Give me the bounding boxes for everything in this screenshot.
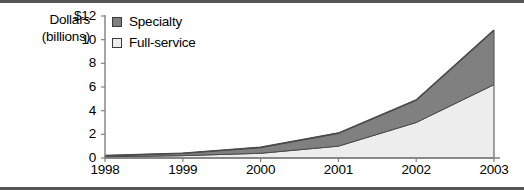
- x-tick-2003: 2003: [464, 163, 524, 177]
- legend-item-specialty[interactable]: Specialty: [112, 11, 196, 32]
- legend-label: Specialty: [129, 11, 182, 32]
- chart-frame: Dollars (billions) $121086420 SpecialtyF…: [0, 0, 524, 190]
- x-tick-1999: 1999: [153, 163, 213, 177]
- x-tick-1998: 1998: [75, 163, 135, 177]
- x-tick-2001: 2001: [308, 163, 368, 177]
- x-axis-tick-labels: 199819992000200120022003: [0, 163, 524, 189]
- legend-label: Full-service: [129, 32, 196, 53]
- x-tick-2002: 2002: [386, 163, 446, 177]
- legend-swatch-full-service: [112, 38, 122, 48]
- legend-swatch-specialty: [112, 17, 122, 27]
- chart-legend: SpecialtyFull-service: [112, 11, 196, 53]
- x-tick-2000: 2000: [231, 163, 291, 177]
- legend-item-full-service[interactable]: Full-service: [112, 32, 196, 53]
